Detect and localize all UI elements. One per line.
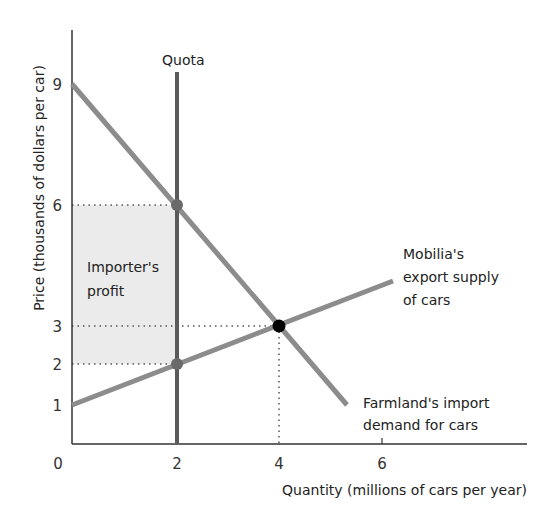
point-equilibrium [273,320,286,333]
supply-label-1: Mobilia's [403,246,464,262]
x-axis-label: Quantity (millions of cars per year) [282,482,527,498]
demand-label-2: demand for cars [363,417,478,433]
x-tick-2: 2 [172,455,182,473]
y-tick-9: 9 [52,76,62,94]
demand-label-1: Farmland's import [363,395,490,411]
supply-label-3: of cars [403,292,450,308]
supply-label-2: export supply [403,269,499,285]
x-tick-4: 4 [274,455,284,473]
trade-quota-chart: 9 6 3 2 1 0 2 4 6 Quantity (millions of … [0,0,556,516]
y-tick-1: 1 [52,397,62,415]
x-tick-0: 0 [53,455,63,473]
importer-profit-label-2: profit [87,283,125,299]
point-quota-demand [171,199,183,211]
y-tick-3: 3 [52,318,62,336]
y-axis-label: Price (thousands of dollars per car) [31,65,47,311]
importer-profit-label-1: Importer's [87,259,159,275]
point-quota-supply [171,358,183,370]
y-tick-2: 2 [52,356,62,374]
quota-label: Quota [162,52,205,68]
x-tick-6-label: 6 [377,455,387,473]
y-tick-6: 6 [52,197,62,215]
